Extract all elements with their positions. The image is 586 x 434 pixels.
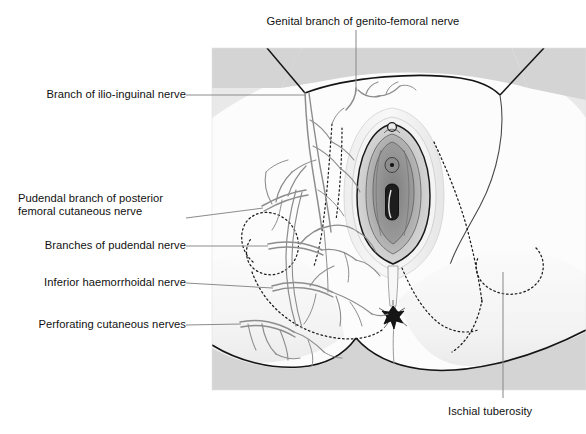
label-branch-of-ilio-inguinal-nerve: Branch of ilio-inguinal nerve	[18, 88, 186, 102]
label-inferior-haemorrhoidal-nerve: Inferior haemorrhoidal nerve	[18, 276, 186, 290]
label-branches-of-pudendal-nerve: Branches of pudendal nerve	[18, 239, 186, 253]
urethral-opening-dot	[390, 163, 394, 167]
illustration-panel	[212, 48, 586, 390]
clitoris	[388, 123, 397, 132]
label-pudendal-branch-pfcn-line2: femoral cutaneous nerve	[18, 205, 198, 219]
vulva-group	[344, 108, 444, 280]
label-pudendal-branch-pfcn-line1: Pudendal branch of posterior	[18, 192, 198, 206]
label-genital-branch-genito-femoral-nerve: Genital branch of genito-femoral nerve	[238, 15, 488, 29]
label-perforating-cutaneous-nerves: Perforating cutaneous nerves	[18, 318, 186, 332]
vaginal-orifice	[386, 184, 399, 220]
label-ischial-tuberosity: Ischial tuberosity	[448, 405, 568, 419]
